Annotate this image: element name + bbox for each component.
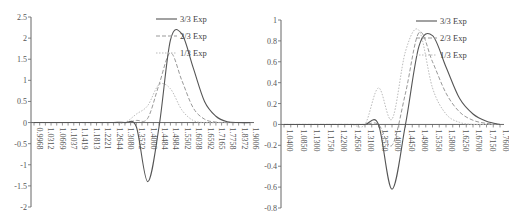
y-tick-label: 0.6	[267, 58, 277, 67]
y-tick-label: 0	[23, 119, 27, 128]
series-line	[34, 53, 250, 123]
x-tick-label: 1.6592	[206, 128, 215, 150]
x-tick-label: 1.2221	[103, 128, 112, 150]
legend-label: 1/3 Exp	[180, 48, 207, 58]
x-tick-label: 1.2644	[115, 128, 124, 150]
right-chart: 10.80.60.40.20-0.2-0.4-0.6-0.81.04001.08…	[264, 16, 509, 213]
x-tick-label: 1.7758	[228, 128, 237, 150]
series-line	[284, 29, 500, 127]
series-line	[34, 30, 250, 182]
x-tick-label: 1.1300	[312, 129, 321, 151]
x-tick-label: 1.9006	[251, 128, 260, 150]
x-tick-label: 1.6700	[474, 129, 483, 151]
legend-label: 3/3 Exp	[180, 14, 207, 24]
x-tick-label: 1.3080	[126, 128, 135, 150]
x-tick-label: 1.5350	[434, 129, 443, 151]
y-tick-label: 0.8	[267, 37, 277, 46]
x-tick-label: 1.0850	[299, 129, 308, 151]
left-chart: 2.521.510.50-0.5-1-1.5-20.99681.03121.06…	[14, 13, 260, 212]
x-tick-label: 1.0312	[46, 128, 55, 150]
x-tick-label: 1.1419	[80, 128, 89, 150]
y-tick-label: -1	[20, 161, 27, 170]
x-tick-label: 1.6250	[461, 129, 470, 151]
y-tick-label: -0.8	[264, 204, 277, 213]
y-tick-label: 0.4	[267, 79, 277, 88]
x-tick-label: 1.2200	[339, 129, 348, 151]
series-line	[284, 34, 500, 190]
x-tick-label: 0.9968	[35, 128, 44, 150]
legend-label: 3/3 Exp	[440, 16, 467, 26]
y-tick-label: 0	[273, 120, 277, 129]
x-tick-label: 1.5502	[183, 128, 192, 150]
y-tick-label: 2.5	[17, 13, 27, 22]
y-tick-label: -0.4	[264, 162, 277, 171]
x-tick-label: 1.3100	[366, 129, 375, 151]
y-tick-label: -0.5	[14, 140, 27, 149]
legend-label: 1/3 Exp	[440, 50, 467, 60]
x-tick-label: 1.8372	[240, 128, 249, 150]
y-tick-label: 1.5	[17, 55, 27, 64]
y-tick-label: -1.5	[14, 182, 27, 191]
x-tick-label: 1.7165	[217, 128, 226, 150]
legend-label: 2/3 Exp	[180, 31, 207, 41]
x-tick-label: 1.4450	[407, 129, 416, 151]
x-tick-label: 1.1750	[326, 129, 335, 151]
x-tick-label: 1.2650	[353, 129, 362, 151]
y-tick-label: 0.2	[267, 100, 277, 109]
x-tick-label: 1.4900	[420, 129, 429, 151]
x-tick-label: 1.1037	[69, 128, 78, 150]
y-tick-label: -0.2	[264, 141, 277, 150]
y-tick-label: 1	[23, 76, 27, 85]
x-tick-label: 1.7600	[501, 129, 509, 151]
y-tick-label: -0.6	[264, 183, 277, 192]
x-tick-label: 1.5800	[447, 129, 456, 151]
x-tick-label: 1.4484	[160, 128, 169, 150]
y-tick-label: 2	[23, 34, 27, 43]
x-tick-label: 1.1813	[92, 128, 101, 150]
x-tick-label: 1.0400	[285, 129, 294, 151]
charts-canvas: 2.521.510.50-0.5-1-1.5-20.99681.03121.06…	[0, 0, 509, 221]
x-tick-label: 1.0669	[58, 128, 67, 150]
y-tick-label: 1	[273, 16, 277, 25]
y-tick-label: -2	[20, 203, 27, 212]
x-tick-label: 1.7150	[488, 129, 497, 151]
x-tick-label: 1.6038	[194, 128, 203, 150]
x-tick-label: 1.4984	[171, 128, 180, 150]
legend-label: 2/3 Exp	[440, 33, 467, 43]
y-tick-label: 0.5	[17, 97, 27, 106]
